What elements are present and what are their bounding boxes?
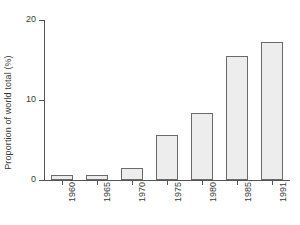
bar-1985 <box>226 56 248 180</box>
y-tick-10: 10 <box>44 100 45 101</box>
bar-1965 <box>86 175 108 180</box>
x-tick-mark-1975 <box>167 181 168 185</box>
y-tick-label: 10 <box>26 94 36 104</box>
x-tick-label-1985: 1985 <box>243 182 254 222</box>
x-tick-mark-1980 <box>202 181 203 185</box>
y-tick-mark <box>39 20 44 21</box>
x-tick-mark-1960 <box>62 181 63 185</box>
x-axis-labels: 1960196519701975198019851991 <box>44 186 290 225</box>
x-tick-mark-1965 <box>97 181 98 185</box>
bar-1960 <box>51 175 73 180</box>
y-tick-mark <box>39 100 44 101</box>
y-tick-label: 0 <box>31 174 36 184</box>
y-tick-20: 20 <box>44 20 45 21</box>
y-tick-label: 20 <box>26 14 36 24</box>
x-tick-mark-1970 <box>132 181 133 185</box>
y-tick-0: 0 <box>44 180 45 181</box>
y-tick-mark <box>39 180 44 181</box>
bar-chart: Proportion of world total (%) 01020 1960… <box>0 0 300 225</box>
x-tick-label-1965: 1965 <box>102 182 113 222</box>
x-tick-mark-1985 <box>237 181 238 185</box>
x-tick-label-1975: 1975 <box>173 182 184 222</box>
bar-1970 <box>121 168 143 180</box>
bar-1991 <box>261 42 283 180</box>
x-tick-label-1960: 1960 <box>67 182 78 222</box>
x-tick-label-1991: 1991 <box>278 182 289 222</box>
x-tick-mark-1991 <box>272 181 273 185</box>
bar-1980 <box>191 113 213 180</box>
bar-1975 <box>156 135 178 180</box>
y-axis-title: Proportion of world total (%) <box>0 0 16 225</box>
x-tick-label-1980: 1980 <box>208 182 219 222</box>
plot-area: 01020 <box>44 20 290 181</box>
x-tick-label-1970: 1970 <box>137 182 148 222</box>
